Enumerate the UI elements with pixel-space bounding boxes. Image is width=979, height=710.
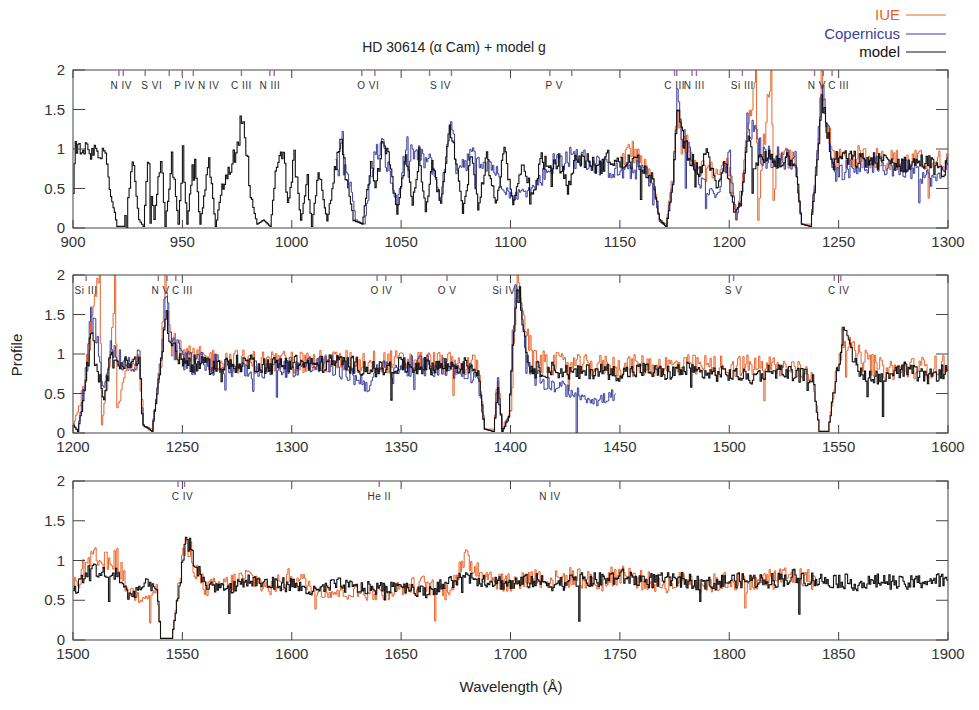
ion-label: Si III: [75, 285, 98, 296]
ion-label: C III: [231, 80, 252, 91]
ion-label: S IV: [430, 80, 451, 91]
x-tick-label: 1550: [166, 645, 199, 662]
x-tick-label: 1250: [822, 233, 855, 250]
y-tick-label: 0.5: [44, 180, 65, 197]
ion-label: S V: [725, 285, 743, 296]
ion-label: N V: [151, 285, 169, 296]
x-tick-label: 1900: [931, 645, 964, 662]
y-tick-label: 1: [57, 552, 65, 569]
ion-label: C IV: [172, 491, 193, 502]
panel-1: 900950100010501100115012001250130000.511…: [44, 61, 965, 250]
x-tick-label: 1400: [494, 438, 527, 455]
ion-label: N IV: [110, 80, 131, 91]
y-tick-label: 0.5: [44, 591, 65, 608]
y-tick-label: 2: [57, 61, 65, 78]
x-tick-label: 1150: [604, 233, 636, 250]
y-tick-label: 2: [57, 472, 65, 489]
x-tick-label: 1800: [713, 645, 746, 662]
ion-label: C III: [664, 80, 685, 91]
y-tick-label: 1.5: [44, 306, 65, 323]
panels: 900950100010501100115012001250130000.511…: [44, 61, 965, 662]
x-tick-label: 1350: [384, 438, 417, 455]
series-model: [73, 95, 948, 228]
ion-label: S VI: [141, 80, 162, 91]
ion-label: Si III: [731, 80, 754, 91]
ion-label: P IV: [174, 80, 195, 91]
ion-label: C III: [828, 80, 849, 91]
ion-label: Si IV: [492, 285, 516, 296]
ion-label: C III: [172, 285, 193, 296]
panel-2: 12001250130013501400145015001550160000.5…: [44, 266, 965, 455]
y-tick-label: 0: [57, 631, 65, 648]
panel-3: 15001550160016501700175018001850190000.5…: [44, 472, 965, 662]
legend-label-iue: IUE: [875, 6, 900, 23]
ion-label: C IV: [828, 285, 849, 296]
ion-label: O V: [438, 285, 457, 296]
series-iue: [620, 70, 948, 224]
spectrum-figure: HD 30614 (α Cam) + model g IUE Copernicu…: [0, 0, 979, 710]
y-tick-label: 1.5: [44, 512, 65, 529]
x-tick-label: 950: [170, 233, 195, 250]
x-tick-label: 1100: [494, 233, 526, 250]
x-tick-label: 1850: [822, 645, 855, 662]
x-tick-label: 1300: [275, 438, 308, 455]
x-tick-label: 1650: [384, 645, 417, 662]
legend-label-model: model: [859, 43, 900, 60]
y-tick-label: 0: [57, 424, 65, 441]
legend: IUE Copernicus model: [824, 6, 946, 60]
plot-frame: [73, 481, 948, 640]
x-tick-label: 1500: [713, 438, 746, 455]
y-tick-label: 1: [57, 140, 65, 157]
x-tick-label: 1000: [275, 233, 308, 250]
ion-label: O IV: [370, 285, 392, 296]
series-model: [73, 537, 948, 638]
x-tick-label: 1450: [603, 438, 636, 455]
ion-label: N IV: [198, 80, 219, 91]
x-tick-label: 1600: [275, 645, 308, 662]
ion-label: N III: [684, 80, 705, 91]
y-tick-label: 1: [57, 345, 65, 362]
ion-label: He II: [367, 491, 391, 502]
x-tick-label: 1300: [931, 233, 964, 250]
y-tick-label: 2: [57, 266, 65, 283]
ion-label: N V: [808, 80, 826, 91]
ion-label: P V: [546, 80, 563, 91]
x-tick-label: 1750: [603, 645, 636, 662]
plot-frame: [73, 70, 948, 228]
y-tick-label: 0: [57, 219, 65, 236]
ion-label: O VI: [357, 80, 379, 91]
ion-label: N III: [259, 80, 280, 91]
x-tick-label: 1050: [384, 233, 417, 250]
x-tick-label: 1600: [931, 438, 964, 455]
ion-label: N IV: [539, 491, 560, 502]
legend-label-copernicus: Copernicus: [824, 25, 900, 42]
x-tick-label: 1250: [166, 438, 199, 455]
x-tick-label: 1700: [494, 645, 527, 662]
y-axis-title: Profile: [8, 334, 25, 377]
x-tick-label: 1200: [713, 233, 746, 250]
y-tick-label: 1.5: [44, 101, 65, 118]
x-tick-label: 1550: [822, 438, 855, 455]
chart-title: HD 30614 (α Cam) + model g: [362, 39, 546, 55]
x-axis-title: Wavelength (Å): [460, 678, 563, 695]
y-tick-label: 0.5: [44, 385, 65, 402]
